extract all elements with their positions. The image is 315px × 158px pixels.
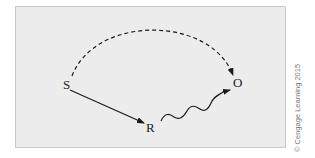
edge-s-to-r-solid [70, 90, 144, 123]
edge-r-to-o-wavy [161, 90, 230, 121]
node-o-label: O [233, 75, 242, 90]
diagram-canvas: S R O [0, 0, 315, 158]
edge-s-to-o-dashed [72, 30, 233, 76]
copyright-credit: © Cengage Learning 2015 [293, 64, 302, 152]
node-s-label: S [63, 77, 70, 92]
node-r-label: R [146, 120, 155, 135]
